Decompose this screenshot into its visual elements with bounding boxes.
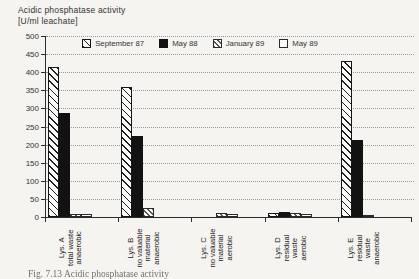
legend-swatch-icon: [159, 39, 168, 48]
bar-may-89: [227, 214, 238, 217]
y-axis-label-400: 400: [9, 68, 39, 77]
legend-item-may-88: May 88: [159, 39, 198, 48]
x-category-label-lys-e: Lys. Eresidualwasteanaerobic: [338, 220, 384, 276]
y-axis-tick-50: [41, 199, 45, 200]
bar-group-lys-e: [339, 36, 412, 217]
chart-title-line1: Acidic phosphatase activity: [18, 5, 125, 16]
y-axis-tick-250: [41, 127, 45, 128]
bar-group-lys-b: [119, 36, 192, 217]
legend: September 87May 88January 89May 89: [50, 39, 350, 48]
bar-september-87: [341, 61, 352, 217]
legend-swatch-icon: [82, 39, 91, 48]
chart-title: Acidic phosphatase activity [U/ml leacha…: [18, 5, 125, 26]
y-axis-label-350: 350: [9, 86, 39, 95]
bar-may-88: [352, 140, 363, 217]
y-axis-label-150: 150: [9, 159, 39, 168]
x-category-label-text: Lys. Bno valuablematerialanaerobic: [127, 222, 161, 274]
y-axis-tick-100: [41, 181, 45, 182]
y-axis-label-300: 300: [9, 104, 39, 113]
legend-label: May 89: [292, 39, 318, 48]
x-category-label-text: Lys. Dresidualwasteaerobic: [274, 222, 308, 274]
bar-january-89: [70, 214, 81, 217]
y-axis-label-450: 450: [9, 50, 39, 59]
x-category-label-lys-a: Lys. Atotal wasteanaerobic: [45, 220, 91, 276]
bar-group-lys-c: [192, 36, 265, 217]
legend-label: September 87: [95, 39, 144, 48]
legend-item-january-89: January 89: [213, 39, 265, 48]
y-axis-tick-500: [41, 36, 45, 37]
legend-label: May 88: [172, 39, 198, 48]
y-axis-label-0: 0: [9, 213, 39, 222]
x-axis-end-tick: [411, 218, 412, 222]
y-axis-label-100: 100: [9, 177, 39, 186]
bar-january-89: [143, 208, 154, 217]
y-axis-label-200: 200: [9, 141, 39, 150]
y-axis-tick-150: [41, 163, 45, 164]
bar-may-88: [132, 136, 143, 217]
bar-may-88: [279, 212, 290, 217]
x-category-label-text: Lys. Atotal wasteanaerobic: [58, 222, 84, 274]
bar-september-87: [121, 87, 132, 217]
y-axis-label-500: 500: [9, 32, 39, 41]
x-category-label-lys-c: Lys. Cno valuablematerialaerobic: [191, 220, 237, 276]
bar-january-89: [216, 213, 227, 217]
y-axis-tick-450: [41, 54, 45, 55]
bar-may-89: [81, 214, 92, 217]
x-category-label-text: Lys. Cno valuablematerialaerobic: [200, 222, 234, 274]
bar-may-88: [59, 113, 70, 217]
bar-may-89: [301, 214, 312, 217]
legend-item-may-89: May 89: [279, 39, 318, 48]
bar-september-87: [48, 67, 59, 217]
y-axis-tick-200: [41, 145, 45, 146]
y-axis-tick-400: [41, 72, 45, 73]
x-category-label-text: Lys. Eresidualwasteanaerobic: [347, 222, 381, 274]
figure-acidic-phosphatase-chart: Acidic phosphatase activity [U/ml leacha…: [0, 0, 419, 279]
y-axis-label-250: 250: [9, 123, 39, 132]
x-category-label-lys-b: Lys. Bno valuablematerialanaerobic: [118, 220, 164, 276]
bar-group-lys-d: [266, 36, 339, 217]
bar-january-89: [363, 215, 374, 217]
legend-item-september-87: September 87: [82, 39, 144, 48]
bar-january-89: [290, 213, 301, 217]
legend-swatch-icon: [279, 39, 288, 48]
y-axis-tick-350: [41, 90, 45, 91]
y-axis-tick-300: [41, 108, 45, 109]
y-axis-label-50: 50: [9, 195, 39, 204]
bar-group-lys-a: [46, 36, 119, 217]
x-category-label-lys-d: Lys. Dresidualwasteaerobic: [265, 220, 311, 276]
legend-label: January 89: [226, 39, 265, 48]
plot-area: [45, 36, 412, 218]
bar-september-87: [268, 213, 279, 217]
legend-swatch-icon: [213, 39, 222, 48]
chart-title-unit: [U/ml leachate]: [18, 16, 125, 27]
